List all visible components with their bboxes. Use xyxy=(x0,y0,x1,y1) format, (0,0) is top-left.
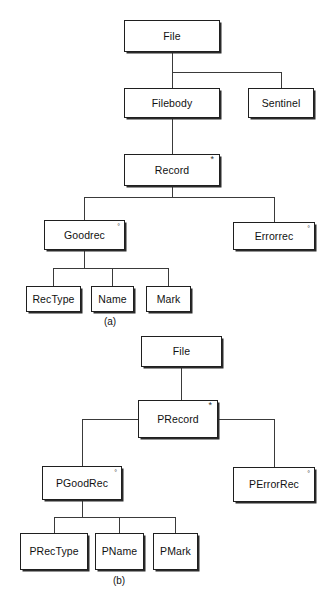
node-file-a[interactable]: File xyxy=(124,20,220,52)
node-label: Record xyxy=(155,165,189,176)
iteration-marker-icon: * xyxy=(210,156,214,163)
node-label: PName xyxy=(102,546,138,557)
node-rectype[interactable]: RecType xyxy=(26,286,81,312)
node-record[interactable]: Record * xyxy=(124,154,220,186)
caption-a: (a) xyxy=(94,316,126,327)
caption-b: (b) xyxy=(103,575,135,586)
selection-marker-icon: ° xyxy=(117,223,120,230)
node-label: Errorrec xyxy=(255,231,294,242)
node-pgoodrec[interactable]: PGoodRec ° xyxy=(42,466,122,500)
node-pname[interactable]: PName xyxy=(95,533,144,570)
node-prectype[interactable]: PRecType xyxy=(20,533,88,570)
node-perrorrec[interactable]: PErrorRec ° xyxy=(233,467,315,502)
node-pmark[interactable]: PMark xyxy=(153,533,198,570)
node-label: RecType xyxy=(32,294,74,305)
node-errorrec[interactable]: Errorrec ° xyxy=(233,222,315,250)
selection-marker-icon: ° xyxy=(307,470,310,477)
node-label: File xyxy=(163,31,180,42)
node-name[interactable]: Name xyxy=(91,286,134,312)
node-precord[interactable]: PRecord * xyxy=(138,400,218,438)
node-label: Mark xyxy=(157,294,181,305)
node-label: PGoodRec xyxy=(56,478,108,489)
node-goodrec[interactable]: Goodrec ° xyxy=(44,220,125,250)
node-label: Name xyxy=(98,294,126,305)
node-label: PRecType xyxy=(29,546,78,557)
selection-marker-icon: ° xyxy=(307,225,310,232)
diagram-canvas: File Filebody Sentinel Record * Goodrec … xyxy=(0,0,336,607)
iteration-marker-icon: * xyxy=(208,402,212,409)
node-file-b[interactable]: File xyxy=(141,336,222,367)
node-label: PMark xyxy=(160,546,191,557)
node-sentinel[interactable]: Sentinel xyxy=(248,88,314,118)
node-filebody[interactable]: Filebody xyxy=(124,88,220,118)
node-label: PRecord xyxy=(157,414,199,425)
node-mark[interactable]: Mark xyxy=(146,286,191,312)
node-label: PErrorRec xyxy=(249,479,299,490)
selection-marker-icon: ° xyxy=(114,469,117,476)
node-label: Goodrec xyxy=(64,230,105,241)
node-label: File xyxy=(173,346,190,357)
node-label: Filebody xyxy=(152,98,193,109)
node-label: Sentinel xyxy=(262,98,301,109)
